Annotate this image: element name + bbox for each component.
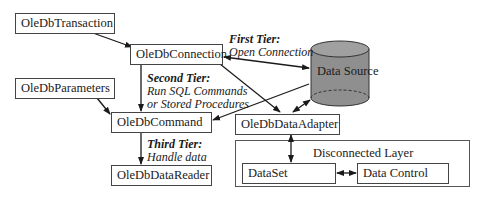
second-tier-desc-2: or Stored Procedures — [147, 97, 249, 111]
node-oledbparameters: OleDbParameters — [15, 78, 115, 99]
third-tier-desc: Handle data — [147, 150, 207, 164]
data-source-label: Data Source — [317, 64, 378, 79]
node-data-control: Data Control — [357, 163, 449, 184]
node-dataset: DataSet — [242, 163, 336, 184]
third-tier-label: Third Tier: Handle data — [147, 138, 207, 164]
second-tier-title: Second Tier: — [147, 71, 210, 85]
first-tier-desc: Open Connection — [229, 45, 313, 59]
first-tier-title: First Tier: — [229, 32, 280, 46]
disconnected-layer-title: Disconnected Layer — [313, 146, 413, 161]
node-oledbconnection: OleDbConnection — [130, 44, 223, 65]
node-oledbtransaction: OleDbTransaction — [15, 13, 115, 34]
node-oledbdatareader: OleDbDataReader — [111, 165, 212, 186]
third-tier-title: Third Tier: — [147, 137, 202, 151]
second-tier-label: Second Tier: Run SQL Commands or Stored … — [147, 72, 249, 111]
second-tier-desc-1: Run SQL Commands — [147, 84, 247, 98]
node-oledbcommand: OleDbCommand — [111, 112, 212, 133]
first-tier-label: First Tier: Open Connection — [229, 33, 313, 59]
node-oledbdataadapter: OleDbDataAdapter — [235, 114, 340, 135]
